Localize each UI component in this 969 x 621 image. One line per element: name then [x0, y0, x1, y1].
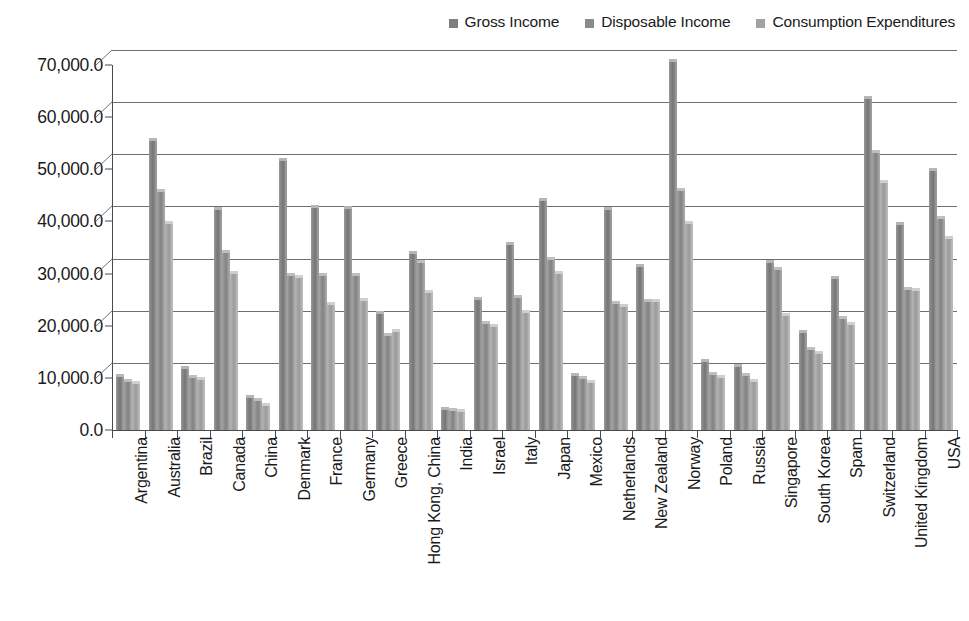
bar[interactable] [929, 171, 937, 430]
bar[interactable] [604, 210, 612, 430]
bar[interactable] [344, 209, 352, 430]
bar[interactable] [587, 383, 595, 430]
bar-top-face [165, 221, 173, 224]
bar[interactable] [522, 313, 530, 430]
bar[interactable] [124, 382, 132, 430]
bar-group [701, 65, 725, 430]
bar[interactable] [214, 210, 222, 430]
bar[interactable] [279, 161, 287, 430]
bar[interactable] [937, 219, 945, 430]
bar[interactable] [750, 382, 758, 430]
bar[interactable] [831, 279, 839, 430]
x-axis-category-label: Japan [557, 437, 573, 480]
bar[interactable] [579, 379, 587, 430]
bar-body [620, 307, 628, 430]
bar[interactable] [457, 412, 465, 430]
bar[interactable] [319, 276, 327, 430]
bar[interactable] [799, 333, 807, 431]
bar[interactable] [612, 304, 620, 430]
bar[interactable] [441, 410, 449, 430]
bar[interactable] [287, 276, 295, 430]
bar[interactable] [311, 208, 319, 430]
bar[interactable] [295, 278, 303, 430]
bar-body [344, 209, 352, 430]
bar[interactable] [669, 62, 677, 430]
legend-entry[interactable]: Gross Income [449, 13, 560, 31]
bar[interactable] [807, 350, 815, 430]
bar[interactable] [384, 336, 392, 430]
x-axis-category-label: Mexico [589, 437, 605, 486]
bar[interactable] [717, 378, 725, 430]
bar[interactable] [539, 201, 547, 430]
bar[interactable] [774, 270, 782, 430]
bar[interactable] [376, 314, 384, 430]
bar[interactable] [685, 224, 693, 430]
bar[interactable] [912, 291, 920, 430]
bar[interactable] [482, 324, 490, 430]
bar[interactable] [352, 276, 360, 430]
bar[interactable] [417, 263, 425, 430]
bar[interactable] [262, 406, 270, 431]
bar[interactable] [709, 375, 717, 430]
bar[interactable] [149, 141, 157, 430]
bar[interactable] [701, 362, 709, 430]
bar-body [246, 398, 254, 430]
bar[interactable] [872, 153, 880, 430]
bar[interactable] [636, 267, 644, 430]
x-axis-category-label: USA [947, 437, 963, 469]
bar[interactable] [157, 192, 165, 430]
bar[interactable] [506, 245, 514, 430]
bar[interactable] [766, 263, 774, 430]
bar[interactable] [360, 301, 368, 430]
bar[interactable] [490, 327, 498, 430]
bar-top-face [750, 379, 758, 382]
bar[interactable] [547, 260, 555, 430]
bar[interactable] [474, 300, 482, 430]
bar-body [774, 270, 782, 430]
bar[interactable] [165, 224, 173, 430]
bar[interactable] [254, 401, 262, 430]
bar[interactable] [734, 367, 742, 430]
bar[interactable] [116, 377, 124, 430]
bar-top-face [604, 207, 612, 210]
bar[interactable] [449, 411, 457, 430]
bar[interactable] [197, 380, 205, 430]
bar-body [872, 153, 880, 430]
legend-entry[interactable]: Disposable Income [585, 13, 730, 31]
bar[interactable] [904, 290, 912, 430]
bar[interactable] [677, 191, 685, 430]
bar[interactable] [327, 305, 335, 430]
bar[interactable] [652, 302, 660, 430]
bar-top-face [677, 188, 685, 191]
bar[interactable] [409, 254, 417, 430]
bar-top-face [742, 373, 750, 376]
bar[interactable] [742, 376, 750, 430]
bar[interactable] [864, 99, 872, 430]
bar-top-face [937, 216, 945, 219]
bar[interactable] [555, 274, 563, 430]
bar[interactable] [246, 398, 254, 430]
bar[interactable] [815, 354, 823, 430]
bar[interactable] [620, 307, 628, 430]
bar[interactable] [644, 302, 652, 430]
bar[interactable] [896, 225, 904, 430]
bar[interactable] [945, 239, 953, 430]
bar[interactable] [880, 183, 888, 430]
bar[interactable] [839, 319, 847, 430]
bar[interactable] [181, 369, 189, 430]
bar[interactable] [230, 274, 238, 430]
bar[interactable] [132, 384, 140, 430]
bar[interactable] [847, 325, 855, 430]
bar[interactable] [514, 298, 522, 430]
y-axis-tick-label: 50,000.0 [37, 159, 103, 180]
bar[interactable] [392, 332, 400, 430]
bar[interactable] [222, 253, 230, 430]
bar[interactable] [425, 293, 433, 430]
bar-group [734, 65, 758, 430]
bar[interactable] [782, 316, 790, 430]
legend-entry[interactable]: Consumption Expenditures [756, 13, 955, 31]
y-axis-tick-mark [105, 430, 112, 431]
bar-top-face [327, 302, 335, 305]
bar[interactable] [571, 376, 579, 430]
bar[interactable] [189, 378, 197, 430]
